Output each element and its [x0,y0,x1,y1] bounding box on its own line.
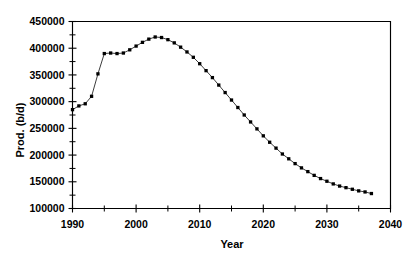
y-tick-label: 400000 [29,42,64,54]
x-tick-label: 2020 [252,218,276,230]
x-tick-label: 2010 [188,218,212,230]
data-point-marker [166,38,169,41]
y-tick-label: 250000 [29,122,64,134]
data-point-marker [147,37,150,40]
x-tick-label: 2000 [124,218,148,230]
data-series-production [71,35,373,195]
data-point-marker [370,192,373,195]
data-point-marker [217,83,220,86]
data-point-marker [134,44,137,47]
data-point-marker [211,76,214,79]
data-point-marker [84,102,87,105]
production-forecast-chart: 1000001500002000002500003000003500004000… [0,0,417,265]
data-point-marker [357,189,360,192]
y-axis-tick-labels: 1000001500002000002500003000003500004000… [29,15,64,214]
data-point-marker [300,166,303,169]
data-point-marker [243,113,246,116]
x-tick-label: 2040 [379,218,403,230]
data-point-marker [313,174,316,177]
x-tick-label: 1990 [61,218,85,230]
data-point-marker [338,184,341,187]
data-point-marker [109,51,112,54]
data-point-marker [274,146,277,149]
series-polyline [73,37,372,194]
data-point-marker [293,162,296,165]
data-point-marker [185,50,188,53]
data-point-marker [173,41,176,44]
data-point-marker [192,56,195,59]
data-point-marker [141,41,144,44]
data-point-marker [204,69,207,72]
data-point-marker [198,62,201,65]
data-point-marker [160,36,163,39]
y-axis-title: Prod. (b/d) [14,102,26,157]
data-point-marker [363,190,366,193]
data-point-marker [319,177,322,180]
data-point-marker [262,134,265,137]
data-point-marker [154,35,157,38]
y-tick-label: 350000 [29,69,64,81]
data-point-marker [77,104,80,107]
data-point-marker [236,106,239,109]
data-point-marker [223,91,226,94]
data-point-marker [306,170,309,173]
data-point-marker [71,108,74,111]
data-point-marker [281,152,284,155]
data-point-marker [90,95,93,98]
data-point-marker [179,46,182,49]
data-point-marker [128,48,131,51]
data-point-marker [115,52,118,55]
data-point-marker [325,180,328,183]
chart-canvas: 1000001500002000002500003000003500004000… [0,0,417,265]
data-point-marker [344,186,347,189]
data-point-marker [103,52,106,55]
x-tick-label: 2030 [315,218,339,230]
data-point-marker [249,120,252,123]
data-point-marker [287,157,290,160]
data-point-marker [122,51,125,54]
data-point-marker [255,127,258,130]
data-point-marker [230,98,233,101]
y-tick-label: 300000 [29,95,64,107]
y-tick-label: 100000 [29,202,64,214]
x-axis-title: Year [220,238,244,250]
y-tick-label: 450000 [29,15,64,27]
data-point-marker [332,182,335,185]
plot-frame [73,22,391,209]
axis-tick-marks [69,22,391,213]
y-tick-label: 200000 [29,149,64,161]
data-point-marker [351,188,354,191]
x-axis-tick-labels: 199020002010202020302040 [61,218,403,230]
y-tick-label: 150000 [29,175,64,187]
data-point-marker [268,141,271,144]
data-point-marker [96,72,99,75]
